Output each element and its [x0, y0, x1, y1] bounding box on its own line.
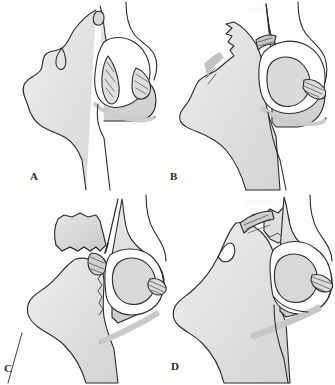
- femur-body-b: [180, 22, 280, 190]
- femoral-notch-d: [218, 243, 235, 262]
- panel-a: [0, 0, 167, 192]
- panel-c: [0, 193, 167, 385]
- iliac-column-right-c: [146, 195, 166, 261]
- superior-fleck-a: [93, 11, 104, 25]
- figure-root: of the and the fracture reduction: [0, 0, 335, 385]
- panel-label-c: C: [4, 362, 12, 374]
- panel-b: [168, 0, 335, 192]
- panel-label-b: B: [170, 170, 177, 182]
- outline-guide-c: [8, 333, 22, 383]
- femur-body-a: [23, 10, 96, 190]
- panel-label-a: A: [30, 170, 38, 182]
- panel-d: [168, 193, 335, 385]
- free-fragment-c: [55, 213, 106, 251]
- panel-label-d: D: [171, 360, 179, 372]
